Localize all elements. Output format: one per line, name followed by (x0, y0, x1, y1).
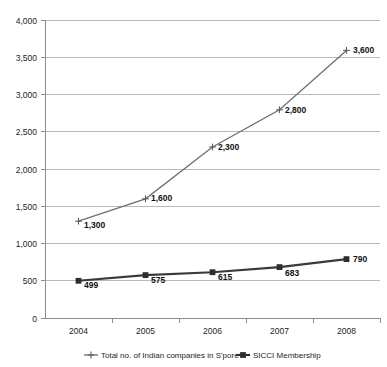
x-tick-label-2008: 2008 (337, 326, 356, 336)
data-label: 2,300 (218, 142, 240, 152)
y-tick-label: 1,500 (16, 202, 38, 212)
series-markers-sicci-membership (76, 256, 350, 283)
data-label: 2,800 (285, 105, 307, 115)
y-axis-labels: 4,000 3,500 3,000 2,500 2,000 1,500 1,00… (16, 16, 38, 324)
legend-item-sicci-membership[interactable]: SICCI Membership (236, 351, 321, 360)
y-tick-label: 2,000 (16, 165, 38, 175)
x-tick-label-2007: 2007 (270, 326, 289, 336)
data-label: 683 (285, 268, 299, 278)
square-marker-icon (240, 352, 246, 358)
series-markers-indian-companies (75, 47, 350, 225)
data-label: 575 (151, 275, 165, 285)
x-axis-labels: 2004 2005 2006 2007 2008 (69, 326, 356, 336)
legend-label-sicci-membership: SICCI Membership (253, 351, 321, 360)
line-chart-svg: 4,000 3,500 3,000 2,500 2,000 1,500 1,00… (0, 0, 387, 367)
data-label: 790 (353, 254, 367, 264)
y-tick-label: 3,000 (16, 90, 38, 100)
legend-label-indian-companies: Total no. of Indian companies in S'pore (101, 351, 239, 360)
data-label: 499 (84, 280, 98, 290)
y-tick-label: 500 (23, 276, 37, 286)
x-tick-label-2005: 2005 (136, 326, 155, 336)
series-line-indian-companies (79, 50, 347, 221)
y-tick-label: 2,500 (16, 127, 38, 137)
chart-container: 4,000 3,500 3,000 2,500 2,000 1,500 1,00… (0, 0, 387, 367)
y-tick-label: 4,000 (16, 16, 38, 26)
data-label: 615 (218, 272, 232, 282)
x-tick-label-2006: 2006 (203, 326, 222, 336)
data-label: 1,300 (84, 220, 106, 230)
data-label: 3,600 (353, 45, 375, 55)
y-tick-label: 0 (32, 314, 37, 324)
chart-legend: Total no. of Indian companies in S'pore … (84, 351, 321, 360)
cross-marker-icon (88, 352, 95, 359)
x-axis-ticks (112, 318, 380, 323)
x-tick-label-2004: 2004 (69, 326, 88, 336)
y-tick-label: 3,500 (16, 53, 38, 63)
legend-item-indian-companies[interactable]: Total no. of Indian companies in S'pore (84, 351, 239, 360)
y-tick-label: 1,000 (16, 239, 38, 249)
data-label: 1,600 (151, 193, 173, 203)
series-labels-sicci-membership: 499 575 615 683 790 (84, 254, 367, 290)
y-axis-ticks (41, 20, 45, 318)
